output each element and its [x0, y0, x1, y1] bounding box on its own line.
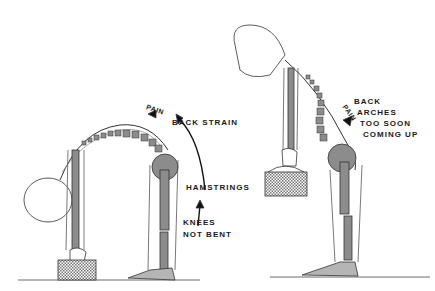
back-arches-line4: COMING UP [363, 130, 418, 140]
back-arches-line3: TOO SOON [360, 119, 411, 129]
tibia-right [344, 216, 352, 260]
back-strain-label: BACK STRAIN [172, 118, 238, 128]
box-right [265, 172, 307, 196]
diagram-artwork [0, 0, 435, 291]
hamstrings-label: HAMSTRINGS [186, 183, 250, 193]
right-figure [234, 25, 430, 277]
knees-label-line1: KNEES [183, 218, 216, 228]
tibia-left [160, 232, 168, 270]
foot-left [128, 268, 175, 280]
back-arches-line2: ARCHES [357, 108, 397, 118]
head-right [234, 25, 285, 77]
back-arches-line1: BACK [354, 97, 381, 107]
head-left [24, 178, 72, 222]
femur-left [160, 170, 169, 230]
box-left [58, 260, 96, 280]
lifting-diagram: PAIN BACK STRAIN HAMSTRINGS KNEES NOT BE… [0, 0, 435, 291]
knees-label-line2: NOT BENT [183, 230, 232, 240]
vertebrae-left [82, 130, 162, 152]
strain-arrow-left [180, 120, 205, 190]
left-figure [18, 110, 205, 280]
arm-bone-right [288, 68, 294, 150]
foot-right [302, 262, 358, 276]
hand-right [282, 148, 297, 166]
box-handle-right [268, 166, 304, 172]
arm-bone-left [72, 150, 79, 252]
femur-right [340, 162, 349, 214]
